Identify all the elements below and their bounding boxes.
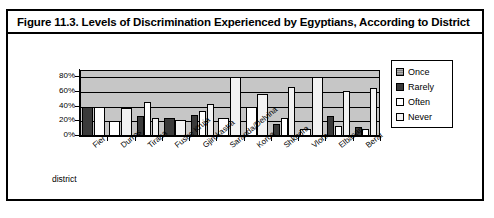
bar-berat-never — [370, 88, 377, 136]
y-axis-tick — [75, 120, 80, 121]
y-axis-line — [79, 69, 80, 137]
bar-elbasan-never — [343, 91, 350, 136]
y-axis-tick-label: 20% — [45, 116, 75, 124]
chart-plot-area: 0%20%40%60%80% FierDurresTiranaFushe Kru… — [8, 34, 482, 199]
y-axis-tick — [75, 91, 80, 92]
legend-swatch-never-icon — [396, 113, 404, 121]
y-axis-tick — [75, 106, 80, 107]
legend-item-once[interactable]: Once — [396, 64, 449, 79]
legend-label-rarely: Rarely — [408, 82, 434, 92]
y-axis-tick-label: 0% — [45, 131, 75, 139]
bar-shkodra-often — [281, 118, 288, 136]
legend-item-often[interactable]: Often — [396, 94, 449, 109]
legend-item-rarely[interactable]: Rarely — [396, 79, 449, 94]
legend-swatch-often-icon — [396, 98, 404, 106]
y-axis-tick-label: 40% — [45, 102, 75, 110]
bar-elbasan-often — [335, 126, 342, 136]
chart-legend: OnceRarelyOftenNever — [391, 60, 453, 128]
legend-swatch-once-icon — [396, 68, 404, 76]
y-axis-tick-labels: 0%20%40%60%80% — [41, 34, 75, 174]
bar-fier-rarely — [82, 107, 93, 136]
bar-vlora-never — [312, 77, 323, 136]
figure-caption: Figure 11.3. Levels of Discrimination Ex… — [8, 11, 482, 34]
y-axis-tick-label: 80% — [45, 72, 75, 80]
bar-fier-often — [94, 107, 105, 136]
y-axis-tick — [75, 135, 80, 136]
figure-frame: Figure 11.3. Levels of Discrimination Ex… — [6, 9, 484, 201]
legend-swatch-rarely-icon — [396, 83, 404, 91]
legend-label-never: Never — [408, 112, 432, 122]
x-axis-title: district — [52, 174, 77, 184]
y-axis-tick-label: 60% — [45, 87, 75, 95]
figure-caption-text: Figure 11.3. Levels of Discrimination Ex… — [17, 16, 470, 28]
bar-tirana-often — [144, 102, 151, 136]
bar-elbasan-rarely — [327, 116, 334, 136]
bar-durres-often — [109, 121, 120, 136]
legend-item-never[interactable]: Never — [396, 109, 449, 124]
legend-label-often: Often — [408, 97, 430, 107]
bar-shkodra-never — [288, 87, 295, 136]
legend-label-once: Once — [408, 67, 430, 77]
y-axis-tick — [75, 76, 80, 77]
